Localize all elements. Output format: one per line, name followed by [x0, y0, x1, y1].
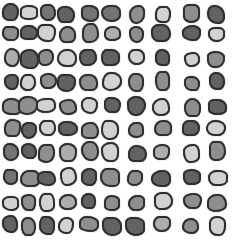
blob-r9-c10	[207, 194, 227, 212]
blob-r8-c10	[208, 170, 228, 186]
blob-r1-c7	[129, 5, 145, 24]
blob-r9-c1	[2, 196, 19, 211]
blob-r6-c8	[154, 120, 172, 136]
blob-r9-c2	[21, 194, 36, 211]
blob-r10-c1	[2, 215, 18, 233]
blob-r7-c2	[21, 143, 37, 159]
blob-r7-c6	[101, 142, 119, 162]
blob-r3-c3	[38, 49, 54, 66]
blob-r5-c3	[36, 98, 56, 113]
blob-r2-c10	[208, 27, 225, 42]
blob-r7-c7	[128, 145, 147, 162]
blob-r4-c6	[102, 72, 122, 91]
blob-r8-c6	[100, 168, 120, 187]
blob-r8-c8	[151, 170, 171, 187]
blob-r2-c3	[37, 24, 56, 42]
blob-r8-c3	[37, 171, 56, 186]
blob-r6-c7	[128, 122, 144, 138]
blob-r1-c3	[40, 4, 56, 21]
blob-r3-c5	[79, 49, 97, 66]
blob-r8-c4	[60, 167, 77, 186]
blob-r10-c5	[79, 216, 99, 232]
blob-r7-c9	[183, 144, 200, 163]
blob-r9-c6	[104, 195, 120, 211]
blob-r8-c9	[183, 169, 201, 185]
blob-r2-c8	[151, 24, 171, 42]
blob-r10-c4	[58, 217, 74, 234]
blob-r2-c1	[2, 26, 19, 41]
blob-r5-c8	[152, 98, 170, 116]
blob-r5-c2	[18, 96, 38, 115]
blob-r2-c5	[82, 23, 99, 43]
blob-r10-c6	[102, 217, 122, 236]
blob-r10-c8	[153, 216, 171, 232]
blob-r3-c6	[101, 49, 120, 66]
blob-r6-c2	[21, 122, 37, 139]
blob-r2-c4	[59, 26, 76, 43]
blob-r7-c1	[3, 143, 19, 161]
blob-r10-c3	[39, 216, 55, 235]
blob-r4-c2	[20, 74, 36, 91]
blob-r6-c9	[182, 120, 200, 136]
blob-r2-c6	[104, 26, 121, 41]
blob-r9-c9	[183, 193, 202, 209]
blob-r4-c7	[128, 73, 144, 92]
blob-r10-c9	[182, 218, 199, 234]
blob-r5-c10	[208, 99, 227, 115]
blob-r1-c10	[207, 5, 225, 24]
blob-r4-c5	[79, 74, 98, 91]
blob-r1-c2	[20, 5, 38, 20]
blob-r10-c2	[21, 217, 36, 236]
blob-r3-c9	[184, 52, 200, 67]
blob-r9-c7	[128, 195, 145, 211]
blob-r2-c2	[20, 25, 38, 40]
blob-r3-c7	[128, 49, 145, 65]
blob-r5-c7	[127, 96, 146, 116]
blob-r8-c1	[3, 169, 18, 185]
blob-r8-c5	[81, 168, 97, 186]
blob-r9-c8	[154, 192, 173, 210]
blob-grid-image	[0, 0, 234, 251]
blob-r7-c5	[81, 141, 99, 161]
blob-r10-c10	[209, 216, 226, 236]
blob-r3-c2	[20, 49, 39, 69]
blob-r4-c10	[209, 72, 225, 90]
blob-r1-c9	[183, 4, 200, 23]
blob-r1-c4	[57, 6, 75, 23]
blob-r3-c8	[155, 49, 170, 66]
blob-r5-c6	[104, 97, 121, 113]
blob-r6-c10	[206, 120, 226, 136]
blob-r6-c3	[39, 120, 56, 136]
blob-r4-c8	[155, 71, 170, 91]
blob-r1-c1	[2, 3, 19, 21]
blob-r1-c8	[155, 6, 171, 23]
blob-r6-c6	[101, 120, 119, 140]
blob-r6-c1	[4, 119, 21, 137]
blob-r2-c9	[182, 25, 201, 41]
blob-r9-c4	[59, 194, 77, 210]
blob-r7-c10	[209, 141, 226, 161]
blob-r3-c10	[207, 51, 225, 68]
blob-r5-c9	[184, 98, 201, 117]
blob-r10-c7	[125, 217, 145, 236]
blob-r1-c5	[81, 5, 99, 22]
blob-r3-c4	[57, 49, 77, 67]
blob-r4-c3	[40, 73, 57, 89]
blob-r2-c7	[129, 26, 144, 43]
blob-r9-c5	[81, 193, 96, 209]
blob-r3-c1	[4, 48, 20, 67]
blob-r4-c4	[57, 74, 76, 92]
blob-r5-c5	[81, 97, 98, 114]
blob-r6-c5	[81, 122, 99, 139]
blob-r4-c9	[184, 76, 200, 91]
blob-r7-c8	[153, 144, 170, 160]
blob-r9-c3	[39, 193, 55, 212]
blob-r4-c1	[4, 74, 19, 90]
blob-r7-c3	[38, 144, 55, 163]
blob-r8-c7	[127, 170, 143, 186]
blob-r5-c4	[59, 99, 77, 115]
blob-r1-c6	[101, 5, 121, 22]
blob-r7-c4	[59, 143, 77, 162]
blob-r6-c4	[58, 121, 78, 136]
